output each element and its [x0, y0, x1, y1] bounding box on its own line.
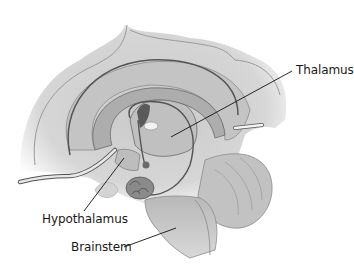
- mammillary-cluster: [126, 177, 154, 199]
- brainstem-label: Brainstem: [71, 241, 132, 253]
- brainstem: [145, 196, 217, 258]
- interthalamic-adhesion: [144, 122, 158, 130]
- hypothalamus-label: Hypothalamus: [42, 213, 128, 225]
- thalamus-label: Thalamus: [296, 64, 354, 76]
